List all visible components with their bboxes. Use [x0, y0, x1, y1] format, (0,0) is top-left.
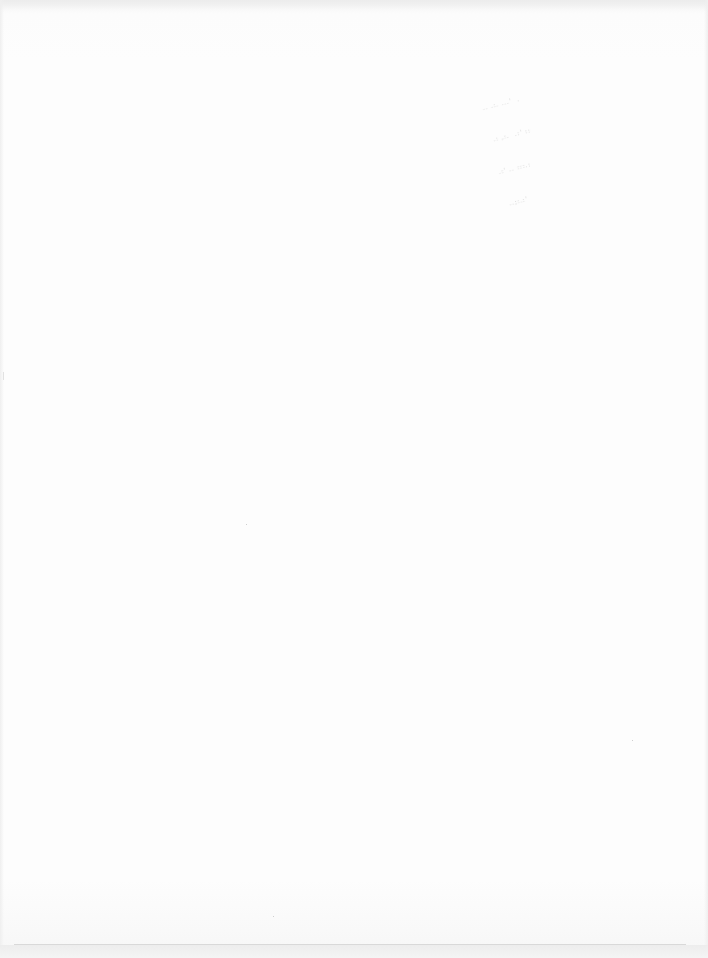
- scan-speck: [246, 524, 247, 525]
- scan-speck: [3, 372, 4, 380]
- bleed-line: .:' .. :::.:: [497, 143, 597, 178]
- scanned-page: .. .:. ...' . .: ,:. .:' :: .:' .. :::.:…: [0, 0, 708, 958]
- page-right-edge: [704, 0, 708, 958]
- page-left-edge: [0, 0, 4, 958]
- page-top-edge: [0, 0, 708, 10]
- page-bottom-edge: [0, 945, 708, 958]
- handwriting-bleed-through: .. .:. ...' . .: ,:. .:' :: .:' .. :::.:…: [476, 58, 590, 152]
- scan-speck: [632, 740, 633, 741]
- bleed-line: ..;:.:': [505, 175, 605, 210]
- bleed-line: .. .:. ...' .: [481, 79, 581, 114]
- scan-speck: [273, 916, 274, 917]
- bleed-line: .: ,:. .:' ::: [489, 111, 589, 146]
